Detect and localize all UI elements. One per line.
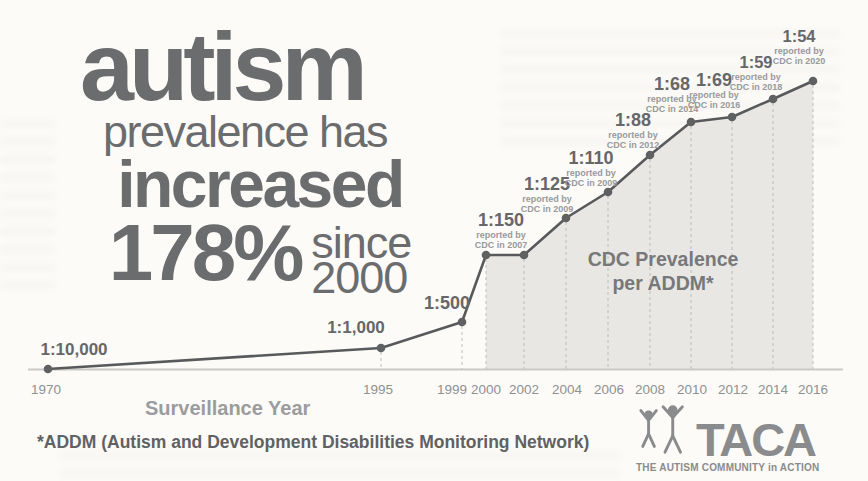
x-axis-title: Surveillance Year: [145, 397, 310, 420]
data-point-1970: [44, 365, 53, 374]
taca-logo: TACA THE AUTISM COMMUNITY in ACTION: [636, 403, 864, 473]
data-point-2000: [482, 251, 491, 260]
area-label-line1: CDC Prevalence: [588, 248, 739, 272]
data-point-1999: [458, 318, 467, 327]
taca-figures-icon: [636, 403, 694, 459]
area-label-cdc-prevalence: CDC Prevalence per ADDM*: [588, 248, 739, 296]
addm-footnote: *ADDM (Autism and Development Disabiliti…: [37, 432, 589, 453]
data-point-2014: [769, 95, 778, 104]
taca-logo-top: TACA: [636, 403, 864, 459]
data-point-2004: [562, 214, 571, 223]
data-point-2010: [687, 118, 696, 127]
taca-logo-tagline: THE AUTISM COMMUNITY in ACTION: [636, 462, 864, 473]
data-point-2008: [646, 151, 655, 160]
data-point-2006: [604, 188, 613, 197]
data-point-2012: [728, 113, 737, 122]
autism-prevalence-infographic: autism prevalence has increased 178% sin…: [0, 0, 868, 481]
data-point-1995: [377, 344, 386, 353]
area-label-line2: per ADDM*: [588, 272, 739, 296]
taca-logo-name: TACA: [696, 422, 815, 459]
data-point-2002: [520, 251, 529, 260]
data-point-2016: [809, 77, 818, 86]
